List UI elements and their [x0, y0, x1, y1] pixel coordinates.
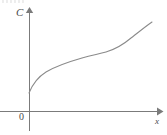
figure-container: C x 0 — [0, 0, 167, 135]
y-axis-arrow-icon — [26, 7, 33, 13]
graph-canvas — [0, 0, 167, 135]
origin-label: 0 — [19, 112, 24, 122]
y-axis-label: C — [16, 7, 23, 18]
x-axis-label: x — [155, 117, 159, 126]
cost-curve-path — [29, 22, 152, 93]
x-axis-arrow-icon — [157, 108, 164, 116]
